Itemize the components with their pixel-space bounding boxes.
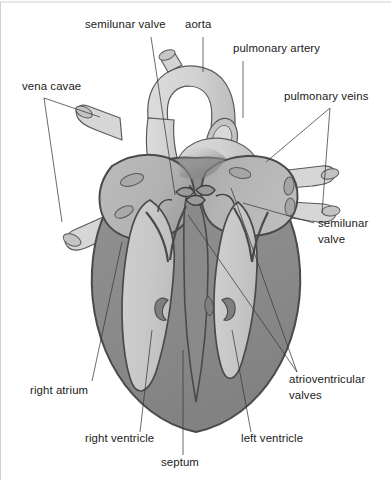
label-vena-cavae: vena cavae: [22, 80, 81, 92]
label-semilunar-valve-right-line2: valve: [318, 233, 345, 245]
heart-diagram-svg: semilunar valve aorta pulmonary artery p…: [0, 0, 391, 480]
label-pulmonary-veins: pulmonary veins: [284, 90, 369, 102]
label-semilunar-valve-right-line1: semilunar: [318, 217, 368, 229]
label-septum: septum: [161, 456, 199, 468]
label-aorta: aorta: [185, 18, 212, 30]
label-atrioventricular-valves-line2: valves: [289, 389, 322, 401]
label-left-ventricle: left ventricle: [241, 432, 303, 444]
label-semilunar-valve-left: semilunar valve: [85, 18, 166, 30]
leader-vena-cavae-b: [44, 98, 62, 222]
label-atrioventricular-valves-line1: atrioventricular: [289, 373, 365, 385]
heart-anatomy-figure: semilunar valve aorta pulmonary artery p…: [0, 0, 391, 480]
heart-body-group: [92, 147, 301, 432]
label-right-atrium: right atrium: [30, 384, 88, 396]
label-pulmonary-artery: pulmonary artery: [233, 42, 320, 54]
leader-pulmonary-veins-a: [266, 108, 330, 162]
label-right-ventricle: right ventricle: [85, 432, 154, 444]
leader-pulmonary-veins-b: [322, 108, 330, 213]
